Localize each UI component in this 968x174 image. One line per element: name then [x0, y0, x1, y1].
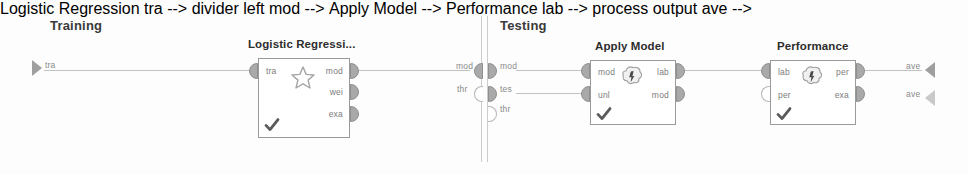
- process-input-port-tra-arrow[interactable]: [32, 60, 42, 76]
- divider-left-port-label-mod: mod: [456, 61, 473, 71]
- divider-right-port-label-thr: thr: [500, 104, 511, 114]
- process-input-port-tra-label: tra: [45, 60, 56, 70]
- port-label-lr-in-tra: tra: [266, 66, 277, 76]
- wire-logistic-regression-to-divider-mod: [359, 70, 470, 71]
- operator-logistic-regression[interactable]: tra mod wei exa: [258, 58, 350, 138]
- port-label-perf-out-exa: exa: [835, 90, 849, 100]
- port-label-lr-out-wei: wei: [330, 87, 343, 97]
- port-label-am-in-mod: mod: [598, 67, 615, 77]
- section-label-training: Training: [50, 18, 102, 33]
- port-label-perf-in-lab: lab: [778, 67, 790, 77]
- divider-right-port-thr[interactable]: [488, 106, 497, 122]
- port-lr-out-mod[interactable]: [350, 63, 359, 79]
- operator-title-logistic-regression: Logistic Regressi...: [248, 38, 355, 50]
- wire-apply-model-to-performance: [685, 70, 761, 71]
- port-perf-out-per[interactable]: [856, 63, 865, 79]
- operator-title-performance: Performance: [777, 40, 848, 52]
- port-label-lr-out-mod: mod: [326, 66, 343, 76]
- port-lr-in-tra[interactable]: [249, 63, 258, 79]
- port-label-lr-out-exa: exa: [329, 109, 343, 119]
- blob-icon: [798, 65, 824, 89]
- port-am-in-mod[interactable]: [581, 63, 590, 79]
- wire-divider-mod-to-apply-model: [516, 70, 581, 71]
- star-icon: [290, 65, 316, 91]
- divider-left-port-label-thr: thr: [457, 84, 468, 94]
- divider-left-port-mod[interactable]: [474, 63, 483, 79]
- check-icon: [264, 117, 280, 133]
- port-perf-out-exa[interactable]: [856, 86, 865, 102]
- divider-right-port-tes[interactable]: [488, 86, 497, 102]
- port-label-am-out-mod: mod: [652, 90, 669, 100]
- port-lr-out-wei[interactable]: [350, 84, 359, 100]
- check-icon: [596, 106, 612, 122]
- operator-apply-model[interactable]: mod unl lab mod: [590, 60, 676, 125]
- port-perf-in-lab[interactable]: [761, 63, 770, 79]
- process-output-port-ave-2-arrow[interactable]: [925, 90, 935, 106]
- blob-icon: [618, 65, 644, 89]
- operator-performance[interactable]: lab per per exa: [770, 60, 856, 125]
- port-am-in-unl[interactable]: [581, 86, 590, 102]
- port-lr-out-exa[interactable]: [350, 106, 359, 122]
- divider-left-port-thr[interactable]: [474, 86, 483, 102]
- section-label-testing: Testing: [500, 18, 547, 33]
- port-perf-in-per[interactable]: [761, 86, 770, 102]
- process-output-port-ave-2-label: ave: [906, 89, 920, 99]
- process-output-port-ave-1-arrow[interactable]: [925, 62, 935, 78]
- check-icon: [776, 106, 792, 122]
- wire-source-to-logistic-regression: [44, 70, 254, 71]
- divider-right-port-label-mod: mod: [500, 61, 517, 71]
- port-label-am-out-lab: lab: [657, 67, 669, 77]
- operator-title-apply-model: Apply Model: [595, 40, 664, 52]
- port-am-out-lab[interactable]: [676, 63, 685, 79]
- port-label-perf-in-per: per: [778, 90, 791, 100]
- port-label-am-in-unl: unl: [598, 90, 610, 100]
- divider-right-port-label-tes: tes: [500, 84, 512, 94]
- process-canvas[interactable]: Training Testing tra Logistic Regression…: [0, 0, 968, 174]
- wire-divider-tes-to-apply-model: [516, 93, 581, 94]
- port-am-out-mod[interactable]: [676, 86, 685, 102]
- port-label-perf-out-per: per: [836, 67, 849, 77]
- process-output-port-ave-1-label: ave: [906, 61, 920, 71]
- divider-right-port-mod[interactable]: [488, 63, 497, 79]
